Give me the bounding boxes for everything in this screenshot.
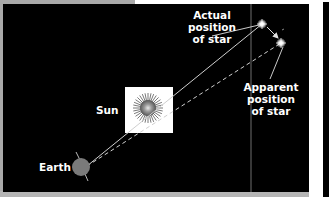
actual-label-line3: of star (186, 33, 238, 45)
actual-label-line1: Actual (186, 9, 238, 21)
small-tick-mark (282, 29, 284, 30)
deflection-arrow (267, 27, 278, 38)
actual-light-path (87, 24, 262, 166)
diagram-frame: Actual position of star Apparent positio… (0, 0, 329, 197)
apparent-label-leader (270, 47, 283, 79)
apparent-position-label: Apparent position of star (240, 81, 302, 117)
apparent-label-line1: Apparent (240, 81, 302, 93)
actual-position-label: Actual position of star (186, 9, 238, 45)
earth-icon (72, 152, 90, 181)
apparent-star-icon (276, 38, 286, 48)
actual-star-icon (257, 19, 267, 29)
earth-label: Earth (39, 161, 71, 173)
apparent-label-line3: of star (240, 105, 302, 117)
apparent-label-line2: position (240, 93, 302, 105)
sun-label: Sun (96, 104, 119, 116)
actual-label-line2: position (186, 21, 238, 33)
